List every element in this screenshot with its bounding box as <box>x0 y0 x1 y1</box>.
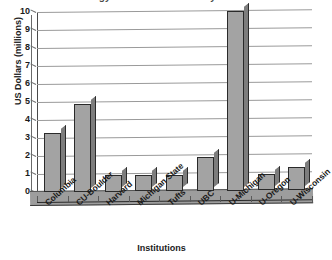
y-tick-label: 10 <box>8 6 30 17</box>
bar-front-face <box>44 133 61 192</box>
x-axis-title: Institutions <box>0 243 323 253</box>
bar-columbia <box>44 127 61 192</box>
bar-side-face <box>183 167 188 187</box>
y-tick-label: 7 <box>8 60 30 71</box>
bar-front-face <box>227 11 244 191</box>
bar-u-michigan <box>227 5 244 191</box>
y-tick-label: 0 <box>8 186 30 197</box>
bar-side-face <box>214 149 219 187</box>
bar-front-face <box>197 157 214 191</box>
y-tick-label: 5 <box>8 96 30 107</box>
y-tick-label: 8 <box>8 42 30 53</box>
y-axis-back-wall <box>31 15 32 195</box>
bar-ubc <box>197 151 214 191</box>
bar-side-face <box>244 3 249 187</box>
y-tick-label: 4 <box>8 114 30 125</box>
y-tick-label: 1 <box>8 168 30 179</box>
chart-title-cropped: Technology Transfer Revenue by Instituti… <box>0 0 323 3</box>
y-tick-label: 9 <box>8 24 30 35</box>
y-tick-label: 3 <box>8 132 30 143</box>
y-tick-label: 6 <box>8 78 30 89</box>
y-tick-mark <box>30 9 36 13</box>
bar-front-face <box>74 104 91 192</box>
bar-cu-boulder <box>74 98 91 192</box>
x-axis-labels: ColumbiaCU-BoulderHarvardMichigan StateT… <box>0 200 323 248</box>
bar-side-face <box>91 96 96 188</box>
y-tick-label: 2 <box>8 150 30 161</box>
